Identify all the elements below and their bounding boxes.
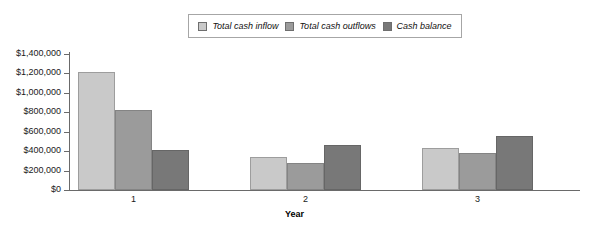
bar bbox=[250, 157, 287, 190]
y-axis-tick: $0 bbox=[0, 190, 69, 191]
y-axis-tick: $1,400,000 bbox=[0, 54, 69, 55]
legend-item-label: Total cash inflow bbox=[212, 22, 278, 31]
x-axis-category-label: 3 bbox=[418, 194, 538, 204]
y-axis-tick-label: $0 bbox=[51, 184, 61, 195]
bar bbox=[459, 153, 496, 190]
x-axis-category-label: 1 bbox=[74, 194, 194, 204]
y-axis-tick-label: $200,000 bbox=[23, 165, 61, 176]
legend-swatch-icon bbox=[383, 22, 392, 31]
legend-swatch-icon bbox=[285, 22, 294, 31]
bar bbox=[115, 110, 152, 190]
legend-item: Total cash outflows bbox=[285, 22, 375, 31]
legend-swatch-icon bbox=[198, 22, 207, 31]
plot-area bbox=[69, 54, 580, 190]
y-axis-tick-label: $1,400,000 bbox=[16, 48, 61, 59]
chart-legend: Total cash inflowTotal cash outflowsCash… bbox=[188, 14, 462, 38]
x-axis-line bbox=[69, 190, 580, 191]
y-axis-tick-label: $1,000,000 bbox=[16, 87, 61, 98]
legend-item: Total cash inflow bbox=[198, 22, 278, 31]
x-axis-title: Year bbox=[0, 209, 589, 219]
bar bbox=[78, 72, 115, 190]
x-axis-category-label: 2 bbox=[246, 194, 366, 204]
y-axis-tick: $800,000 bbox=[0, 112, 69, 113]
bar bbox=[496, 136, 533, 190]
bar-group bbox=[422, 54, 533, 190]
bar-group bbox=[250, 54, 361, 190]
y-axis-tick-label: $1,200,000 bbox=[16, 67, 61, 78]
y-axis-tick-label: $800,000 bbox=[23, 106, 61, 117]
y-axis-tick-mark bbox=[64, 190, 69, 191]
bar-group bbox=[78, 54, 189, 190]
y-axis-tick-label: $600,000 bbox=[23, 126, 61, 137]
y-axis-tick: $200,000 bbox=[0, 171, 69, 172]
bar bbox=[287, 163, 324, 190]
y-axis-tick: $1,000,000 bbox=[0, 93, 69, 94]
y-axis-tick: $1,200,000 bbox=[0, 73, 69, 74]
bar bbox=[324, 145, 361, 190]
legend-item: Cash balance bbox=[383, 22, 452, 31]
bar bbox=[152, 150, 189, 190]
y-axis-tick: $400,000 bbox=[0, 151, 69, 152]
bar bbox=[422, 148, 459, 190]
legend-item-label: Total cash outflows bbox=[299, 22, 375, 31]
y-axis-tick-label: $400,000 bbox=[23, 145, 61, 156]
y-axis-tick: $600,000 bbox=[0, 132, 69, 133]
legend-item-label: Cash balance bbox=[397, 22, 452, 31]
bar-chart: Total cash inflowTotal cash outflowsCash… bbox=[0, 0, 589, 229]
